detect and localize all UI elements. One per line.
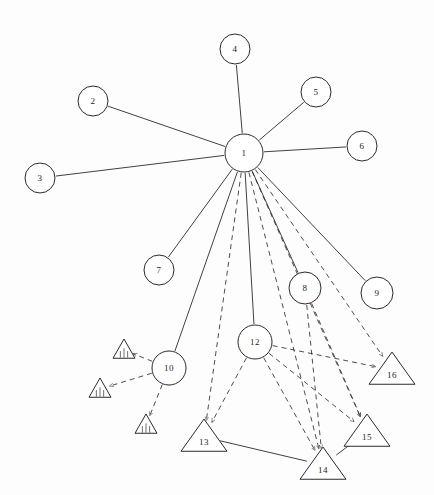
edge-dashed-10-w3	[150, 385, 163, 416]
node-label-10: 10	[164, 363, 174, 373]
node-2[interactable]: 2	[78, 86, 108, 116]
node-12[interactable]: 12	[238, 325, 272, 359]
node-label-7: 7	[157, 265, 162, 275]
edge-solid-1-2	[108, 106, 225, 146]
edge-solid-13-14	[220, 441, 307, 461]
edge-dashed-1-14	[249, 172, 319, 449]
edge-solid-1-4	[236, 65, 242, 133]
nodes-layer: 123456789101213141516	[25, 34, 415, 479]
node-7[interactable]: 7	[144, 255, 174, 285]
edge-dashed-12-15	[269, 353, 354, 421]
node-label-4: 4	[233, 44, 238, 54]
node-9[interactable]: 9	[361, 277, 393, 309]
node-4[interactable]: 4	[220, 34, 250, 64]
node-10[interactable]: 10	[152, 351, 186, 385]
node-1[interactable]: 1	[225, 134, 263, 172]
node-15[interactable]: 15	[344, 414, 390, 446]
edge-dashed-10-w2	[109, 373, 151, 386]
edge-dashed-1-16	[255, 170, 382, 357]
warning-triangle-icon	[113, 339, 135, 358]
network-graph-svg: 123456789101213141516	[0, 0, 434, 495]
node-13[interactable]: 13	[181, 419, 227, 451]
edge-dashed-12-13	[212, 358, 247, 423]
edge-dashed-8-14	[307, 305, 322, 449]
node-label-16: 16	[387, 370, 397, 380]
edge-dashed-8-15	[312, 304, 361, 417]
edge-solid-1-5	[259, 102, 304, 140]
node-label-13: 13	[199, 437, 209, 447]
solid-edges-layer	[56, 65, 365, 461]
dashed-edges-layer	[109, 170, 382, 451]
edge-solid-1-12	[245, 173, 254, 324]
edge-dashed-10-w1	[133, 354, 152, 362]
node-label-3: 3	[38, 173, 43, 183]
node-6[interactable]: 6	[347, 131, 377, 161]
node-8[interactable]: 8	[289, 272, 321, 304]
warning-markers-layer	[89, 339, 157, 433]
node-label-1: 1	[242, 148, 247, 158]
node-14[interactable]: 14	[300, 447, 346, 479]
edge-solid-1-9	[258, 167, 366, 280]
node-5[interactable]: 5	[301, 77, 331, 107]
node-label-5: 5	[314, 87, 319, 97]
edge-dashed-12-16	[273, 346, 376, 367]
node-label-15: 15	[362, 432, 372, 442]
warning-triangle-icon	[135, 414, 157, 433]
edge-solid-1-10	[175, 172, 237, 351]
node-label-14: 14	[318, 465, 328, 475]
node-label-2: 2	[91, 96, 96, 106]
node-label-8: 8	[303, 283, 308, 293]
node-label-12: 12	[250, 337, 260, 347]
edge-solid-1-6	[264, 147, 346, 152]
node-16[interactable]: 16	[369, 352, 415, 384]
node-label-6: 6	[360, 141, 365, 151]
edge-solid-1-3	[56, 155, 224, 176]
node-label-9: 9	[375, 288, 380, 298]
network-diagram-canvas: 123456789101213141516	[0, 0, 434, 495]
node-3[interactable]: 3	[25, 163, 55, 193]
warning-triangle-icon	[89, 378, 111, 397]
